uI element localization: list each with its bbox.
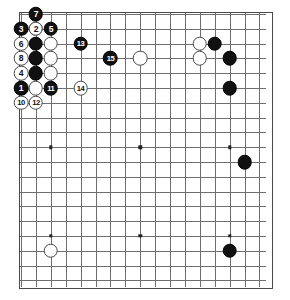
stone-black-move-3[interactable]: 3	[14, 22, 29, 37]
star-point	[138, 145, 141, 148]
move-number: 14	[77, 84, 84, 92]
star-point	[228, 145, 231, 148]
grid-line-vertical	[215, 13, 216, 287]
grid-line-horizontal	[20, 132, 266, 133]
grid-line-vertical	[81, 13, 82, 287]
grid-line-horizontal	[20, 177, 266, 178]
star-point	[49, 234, 52, 237]
move-number: 4	[19, 69, 23, 78]
grid-line-horizontal	[20, 14, 266, 15]
stone-white-move-14[interactable]: 14	[73, 81, 88, 96]
star-point	[138, 234, 141, 237]
grid-line-horizontal	[20, 206, 266, 207]
grid-line-vertical	[170, 13, 171, 287]
stone-black-move-1[interactable]: 1	[14, 81, 29, 96]
stone-white[interactable]	[44, 66, 59, 81]
stone-black[interactable]	[29, 36, 44, 51]
stone-white[interactable]	[133, 51, 148, 66]
grid-line-vertical	[185, 13, 186, 287]
move-number: 13	[77, 40, 84, 48]
go-diagram: 73256841111012131514	[0, 0, 290, 300]
grid-line-vertical	[245, 13, 246, 287]
stone-white[interactable]	[44, 51, 59, 66]
move-number: 6	[19, 39, 23, 48]
grid-line-horizontal	[20, 118, 266, 119]
move-number: 3	[19, 25, 23, 34]
stone-white[interactable]	[44, 36, 59, 51]
move-number: 2	[34, 25, 38, 34]
stone-white-move-10[interactable]: 10	[14, 96, 29, 111]
move-number: 11	[47, 84, 54, 92]
stone-white-move-8[interactable]: 8	[14, 51, 29, 66]
move-number: 8	[19, 54, 23, 63]
go-board[interactable]: 73256841111012131514	[19, 12, 273, 289]
stone-black-move-5[interactable]: 5	[44, 22, 59, 37]
stone-black[interactable]	[222, 81, 237, 96]
grid-line-horizontal	[20, 192, 266, 193]
grid-line-horizontal	[20, 280, 266, 281]
grid-line-horizontal	[20, 266, 266, 267]
grid-line-vertical	[66, 13, 67, 287]
move-number: 5	[49, 25, 53, 34]
stone-white[interactable]	[29, 81, 44, 96]
stone-white-move-6[interactable]: 6	[14, 36, 29, 51]
stone-white[interactable]	[193, 36, 208, 51]
star-point	[49, 145, 52, 148]
move-number: 7	[34, 10, 38, 19]
move-number: 15	[107, 55, 114, 63]
move-number: 10	[17, 99, 24, 107]
stone-black-move-15[interactable]: 15	[103, 51, 118, 66]
move-number: 12	[32, 99, 39, 107]
grid-line-vertical	[259, 13, 260, 287]
stone-black[interactable]	[207, 36, 222, 51]
stone-black-move-11[interactable]: 11	[44, 81, 59, 96]
grid-line-horizontal	[20, 103, 266, 104]
grid-line-vertical	[155, 13, 156, 287]
stone-black[interactable]	[29, 51, 44, 66]
stone-black[interactable]	[29, 66, 44, 81]
stone-black[interactable]	[237, 155, 252, 170]
stone-white-move-12[interactable]: 12	[29, 96, 44, 111]
stone-black-move-7[interactable]: 7	[29, 7, 44, 22]
grid-line-horizontal	[20, 221, 266, 222]
move-number: 1	[19, 84, 23, 93]
star-point	[228, 234, 231, 237]
stone-white[interactable]	[44, 244, 59, 259]
stone-white-move-4[interactable]: 4	[14, 66, 29, 81]
stone-black-move-13[interactable]: 13	[73, 36, 88, 51]
grid-line-vertical	[125, 13, 126, 287]
stone-black[interactable]	[222, 244, 237, 259]
stone-white-move-2[interactable]: 2	[29, 22, 44, 37]
grid-line-horizontal	[20, 162, 266, 163]
stone-white[interactable]	[193, 51, 208, 66]
stone-black[interactable]	[222, 51, 237, 66]
grid-line-vertical	[96, 13, 97, 287]
